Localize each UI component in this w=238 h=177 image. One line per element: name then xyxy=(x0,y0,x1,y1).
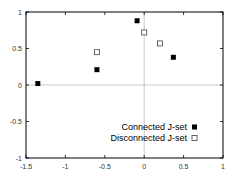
y-tick-label: 0 xyxy=(18,82,22,89)
legend: Connected J-setDisconnected J-set xyxy=(110,122,197,143)
connected-point xyxy=(94,67,99,72)
y-tick-label: -1 xyxy=(16,155,22,162)
legend-hollow-square-icon xyxy=(192,136,197,141)
legend-label: Connected J-set xyxy=(121,122,187,132)
disconnected-point xyxy=(94,50,99,55)
x-tick-label: -1 xyxy=(62,163,68,170)
y-tick-label: 0.5 xyxy=(12,45,22,52)
scatter-chart: -1.5-1-0.500.51-1-0.500.51 Connected J-s… xyxy=(0,0,238,177)
disconnected-point xyxy=(157,41,162,46)
legend-label: Disconnected J-set xyxy=(110,133,187,143)
axis-ticks: -1.5-1-0.500.51-1-0.500.51 xyxy=(10,9,225,171)
y-tick-label: 1 xyxy=(18,9,22,16)
connected-point xyxy=(135,18,140,23)
x-tick-label: -0.5 xyxy=(99,163,111,170)
connected-point xyxy=(171,55,176,60)
data-points xyxy=(35,18,176,86)
x-tick-label: 0 xyxy=(142,163,146,170)
x-tick-label: 0.5 xyxy=(179,163,189,170)
legend-filled-square-icon xyxy=(192,125,197,130)
disconnected-point xyxy=(142,30,147,35)
x-tick-label: -1.5 xyxy=(20,163,32,170)
connected-point xyxy=(35,81,40,86)
x-tick-label: 1 xyxy=(221,163,225,170)
y-tick-label: -0.5 xyxy=(10,118,22,125)
